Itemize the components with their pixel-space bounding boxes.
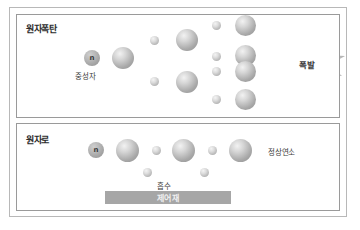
neutron-gen1-upper [150, 36, 159, 45]
reactor-nucleus-3 [229, 139, 252, 162]
control-rod-label: 제어재 [157, 192, 180, 203]
label-neutron: 중성자 [75, 70, 95, 81]
label-explosion: 폭발 [299, 58, 315, 70]
nucleus-gen1-lower [176, 71, 198, 93]
neutron-gen2-4 [212, 95, 221, 104]
panel-atomic-bomb [16, 14, 340, 118]
figure-root: 원자폭탄 n 중성자 폭발 원자로 n 정상연소 흡수 제어재 [0, 0, 360, 230]
nucleus-gen0 [112, 47, 134, 69]
reactor-nucleus-2 [172, 139, 195, 162]
label-absorption: 흡수 [157, 180, 171, 191]
reactor-nucleus-1 [116, 139, 139, 162]
label-steady-burn: 정상연소 [268, 146, 295, 157]
neutron-gen2-3 [212, 67, 221, 76]
nucleus-gen2-3 [235, 61, 256, 82]
start-neutron-bomb: n [84, 50, 100, 66]
nucleus-gen2-1 [235, 15, 256, 36]
neutron-gen2-2 [212, 52, 221, 61]
nucleus-gen1-upper [176, 29, 198, 51]
reactor-chain-neutron-2 [208, 146, 217, 155]
start-neutron-reactor: n [88, 142, 104, 158]
panel-title-nuclear-reactor: 원자로 [26, 133, 49, 146]
panel-title-atomic-bomb: 원자폭탄 [26, 22, 57, 35]
reactor-absorbed-neutron-2 [200, 168, 209, 177]
reactor-chain-neutron-1 [152, 146, 161, 155]
neutron-gen2-1 [212, 21, 221, 30]
reactor-absorbed-neutron-1 [143, 168, 152, 177]
control-rod-bar: 제어재 [105, 191, 231, 204]
neutron-gen1-lower [150, 77, 159, 86]
nucleus-gen2-4 [235, 89, 256, 110]
